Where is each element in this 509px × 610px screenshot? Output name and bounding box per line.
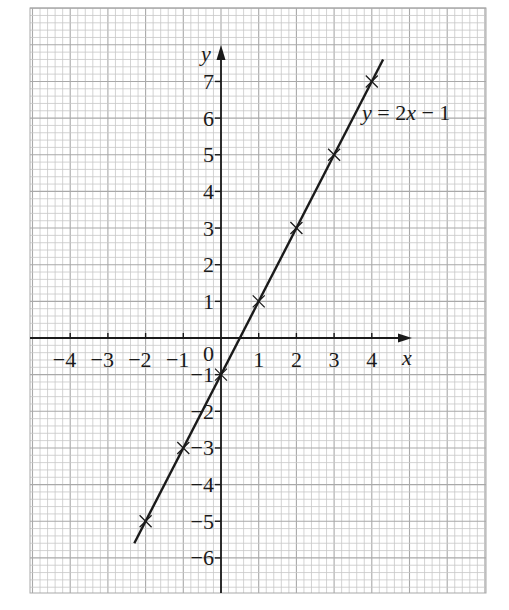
- origin-label: 0: [203, 341, 214, 366]
- y-tick-label: 5: [203, 142, 214, 167]
- x-tick-label: 3: [329, 347, 340, 372]
- y-tick-label: 1: [203, 289, 214, 314]
- y-tick-label: 6: [203, 106, 214, 131]
- equation-rest: − 1: [416, 100, 450, 125]
- y-tick-label: 3: [203, 216, 214, 241]
- y-tick-label: −3: [191, 435, 214, 460]
- y-tick-label: −4: [191, 472, 214, 497]
- equation-y: y: [360, 100, 372, 125]
- y-tick-label: −5: [191, 509, 214, 534]
- y-tick-label: 2: [203, 252, 214, 277]
- x-tick-label: 4: [366, 347, 377, 372]
- x-tick-label: 1: [253, 347, 264, 372]
- line-graph: −4−3−2−11234−6−5−4−3−2−11234567 x y 0 y …: [0, 0, 509, 610]
- y-tick-label: 7: [203, 69, 214, 94]
- equation-label: y = 2x − 1: [360, 100, 450, 125]
- x-tick-label: 2: [291, 347, 302, 372]
- x-tick-label: −3: [90, 347, 113, 372]
- equation-eq: = 2: [372, 100, 406, 125]
- y-tick-label: −6: [191, 545, 214, 570]
- y-axis-label: y: [199, 41, 211, 66]
- x-tick-label: −2: [128, 347, 151, 372]
- x-tick-label: −1: [166, 347, 189, 372]
- equation-x: x: [405, 100, 416, 125]
- x-axis-label: x: [401, 345, 412, 370]
- y-tick-label: 4: [203, 179, 214, 204]
- x-tick-label: −4: [53, 347, 76, 372]
